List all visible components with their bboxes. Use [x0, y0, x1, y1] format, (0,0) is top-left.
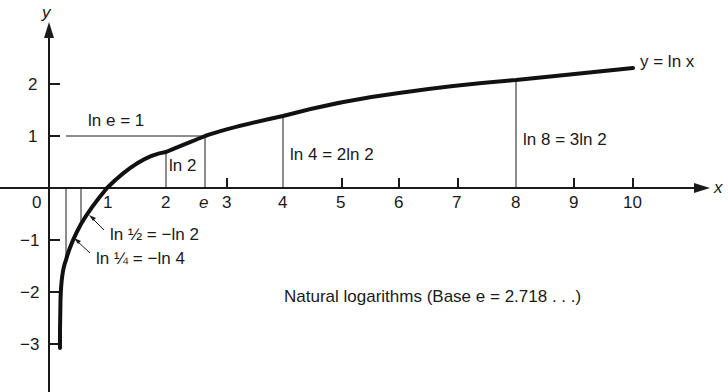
y-tick-1: 1	[28, 127, 37, 146]
x-tick-8: 8	[511, 193, 520, 212]
x-tick-5: 5	[336, 193, 345, 212]
x-tick-10: 10	[623, 193, 642, 212]
label-ln-e: ln e = 1	[88, 111, 144, 130]
x-axis-arrow-icon	[694, 183, 710, 193]
y-tick-m1: −1	[20, 231, 39, 250]
x-tick-4: 4	[278, 193, 287, 212]
label-ln-half: ln ½ = −ln 2	[110, 225, 199, 244]
x-tick-0: 0	[32, 193, 41, 212]
x-ticks: 0 1 2 e 3 4 5 6 7 8 9 10	[32, 178, 642, 212]
y-tick-2: 2	[28, 75, 37, 94]
x-tick-7: 7	[452, 193, 461, 212]
x-tick-9: 9	[569, 193, 578, 212]
x-tick-2: 2	[161, 193, 170, 212]
y-axis-label: y	[41, 3, 52, 22]
annotation-arrows	[74, 215, 104, 253]
x-tick-6: 6	[394, 193, 403, 212]
ln-chart: y x 2 1 −1 −2 −3 0 1 2 e 3 4 5 6 7 8 9 1…	[0, 0, 728, 392]
ln-curve	[60, 68, 633, 348]
arrow-half-icon	[89, 215, 96, 221]
y-tick-m3: −3	[20, 335, 39, 354]
label-ln-2: ln 2	[169, 156, 196, 175]
x-tick-e: e	[199, 193, 208, 212]
y-axis-arrow-icon	[44, 22, 54, 38]
curve-label: y = ln x	[640, 52, 695, 71]
y-tick-m2: −2	[20, 283, 39, 302]
annotations: ln e = 1 ln 2 ln 4 = 2ln 2 ln 8 = 3ln 2 …	[88, 52, 695, 306]
x-tick-1: 1	[103, 193, 112, 212]
y-ticks: 2 1 −1 −2 −3	[20, 75, 60, 354]
label-ln-8: ln 8 = 3ln 2	[523, 130, 607, 149]
label-ln-4: ln 4 = 2ln 2	[290, 145, 374, 164]
chart-caption: Natural logarithms (Base e = 2.718 . . .…	[284, 287, 581, 306]
x-axis-label: x	[713, 178, 723, 197]
x-tick-3: 3	[222, 193, 231, 212]
label-ln-quarter: ln ¼ = −ln 4	[96, 249, 185, 268]
